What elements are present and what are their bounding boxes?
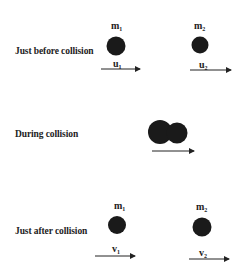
ball-m1 — [107, 37, 126, 56]
mass-label-m1-after: m1 — [114, 200, 125, 212]
body-m1-after: m1 v1 — [95, 200, 135, 256]
mass-label-m2-after: m2 — [196, 201, 207, 213]
bodies-during — [148, 120, 194, 151]
body-m2-after: m2 v2 — [189, 201, 229, 259]
ball-m2 — [192, 37, 209, 54]
velocity-label-u1: u1 — [113, 58, 122, 70]
velocity-label-u2: u2 — [199, 59, 208, 71]
collision-diagram: m1 u1 m2 u2 m1 v1 m2 v2 — [0, 0, 251, 271]
body-m2-before: m2 u2 — [190, 20, 231, 71]
velocity-label-v2: v2 — [199, 247, 207, 259]
mass-label-m1: m1 — [111, 20, 122, 32]
mass-label-m2: m2 — [194, 20, 205, 32]
ball-m2-after — [193, 218, 212, 237]
ball-m2-during — [167, 123, 188, 144]
ball-m1-after — [108, 216, 126, 234]
velocity-label-v1: v1 — [112, 243, 120, 255]
body-m1-before: m1 u1 — [101, 20, 140, 70]
